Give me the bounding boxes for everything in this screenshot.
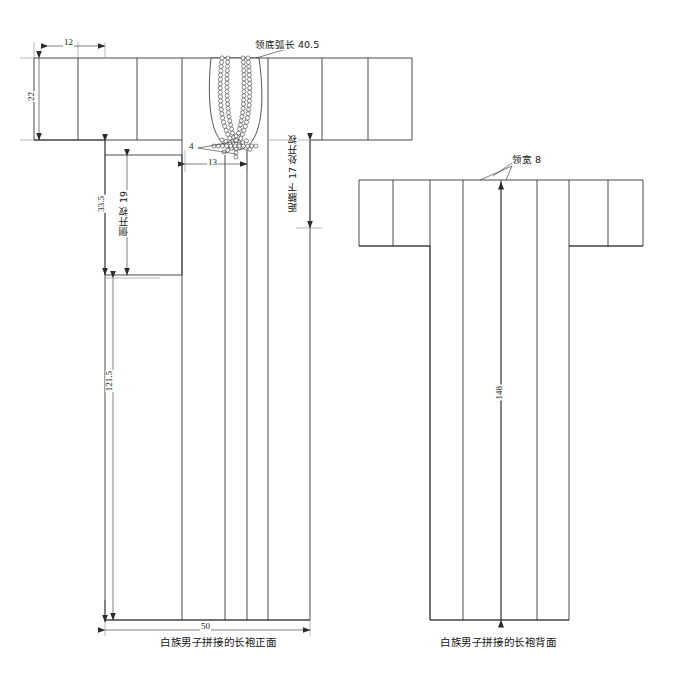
dim-label-sleeve-height: 22 xyxy=(27,91,36,102)
dim-label-armhole-to-slit: 33.5 xyxy=(97,195,106,213)
figure-caption-back: 白族男子拼接的长袍背面 xyxy=(440,634,557,649)
dim-label-placket-width: 13 xyxy=(207,158,218,167)
dim-label-side-slit: 侧开衩 19 xyxy=(119,190,129,237)
dim-label-center-back-length: 148 xyxy=(495,385,504,401)
dim-label-hem-width: 50 xyxy=(200,622,211,631)
drawing-sheet: 12 22 33.5 侧开衩 19 121.5 13 4 距腋下 17 处开衩 … xyxy=(0,0,678,687)
dim-label-slit-note: 距腋下 17 处开衩 xyxy=(288,133,298,213)
dim-label-body-length: 121.5 xyxy=(105,370,114,392)
figure-caption-front: 白族男子拼接的长袍正面 xyxy=(160,634,277,649)
dim-label-collar-width: 领宽 8 xyxy=(512,155,541,165)
dim-label-placket-overlap: 4 xyxy=(188,142,195,151)
technical-drawing-canvas xyxy=(0,0,678,687)
front-dimension-lines xyxy=(20,42,322,636)
dim-label-cuff-width: 12 xyxy=(63,38,74,47)
back-collar-leader xyxy=(480,163,512,180)
dim-label-collar-arc: 领底弧长 40.5 xyxy=(255,40,319,50)
